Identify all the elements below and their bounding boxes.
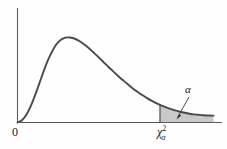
curve-group xyxy=(18,37,214,122)
alpha-area-label: α xyxy=(185,84,191,95)
critical-value-label: χ2α xyxy=(157,125,165,142)
chi-square-plot-svg xyxy=(0,0,227,149)
chi-exponent: 2 xyxy=(162,124,166,133)
origin-label: 0 xyxy=(12,126,18,138)
chi-square-density-curve xyxy=(18,37,214,122)
chi-square-distribution-figure: 0 α χ2α xyxy=(0,0,227,149)
chi-subscript-alpha: α xyxy=(161,133,165,142)
axes-group xyxy=(17,8,222,123)
